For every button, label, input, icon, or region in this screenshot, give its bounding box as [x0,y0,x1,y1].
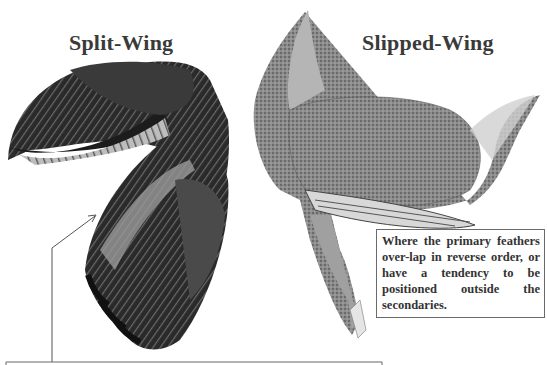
split-wing-illustration [8,62,229,350]
split-wing-title: Split-Wing [69,30,173,56]
slipped-wing-title: Slipped-Wing [362,30,494,56]
pointer-arrow [52,215,96,362]
slipped-wing-caption: Where the primary feathers over-lap in r… [376,229,545,318]
